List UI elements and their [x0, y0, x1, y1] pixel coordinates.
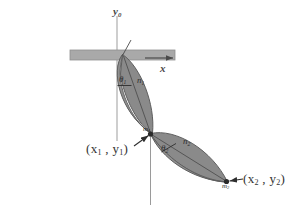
figure-canvas: y0 x θ1 n1 θ2 n2 m1 m2 (x1 , y1) (x2 , y… [0, 0, 291, 215]
m-1-marker-label: m1 [143, 126, 150, 133]
joint-1-leader-arrow [134, 136, 149, 147]
m-2-marker-label: m2 [222, 183, 229, 190]
y-axis-label: y0 [113, 6, 121, 17]
n-2-label: n2 [183, 137, 190, 146]
endpoint-2-leader-arrow [230, 179, 244, 181]
x-axis-label: x [160, 63, 166, 74]
joint-1-coordinate-label: (x1 , y1) [86, 142, 128, 155]
theta-1-label: θ1 [119, 75, 126, 84]
n-1-label: n1 [137, 76, 144, 85]
endpoint-2-coordinate-label: (x2 , y2) [243, 172, 285, 185]
theta-2-label: θ2 [161, 144, 168, 153]
